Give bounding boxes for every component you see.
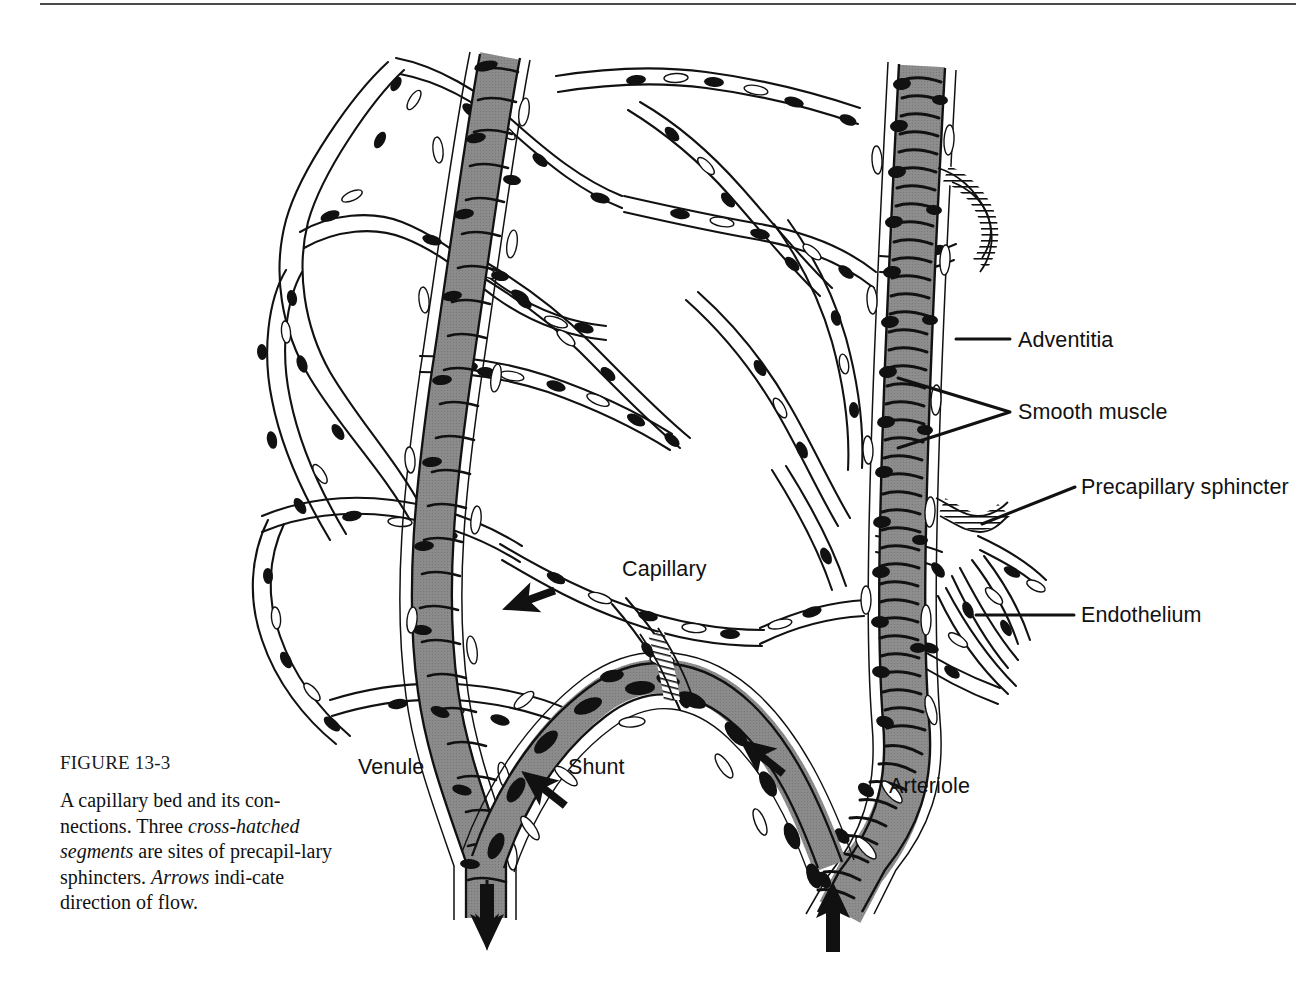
label-arteriole: Arteriole (889, 774, 970, 799)
label-shunt: Shunt (568, 755, 625, 780)
figure-page: Adventitia Smooth muscle Precapillary sp… (0, 0, 1314, 997)
label-endothelium: Endothelium (1081, 603, 1202, 628)
label-venule: Venule (358, 755, 424, 780)
label-precapillary-sphincter: Precapillary sphincter (1081, 475, 1289, 500)
figure-number: FIGURE 13-3 (60, 752, 352, 774)
label-smooth-muscle: Smooth muscle (1018, 400, 1167, 425)
label-capillary: Capillary (622, 557, 707, 582)
shunt-vessel (462, 652, 854, 890)
precapillary-sphincter-2 (936, 498, 1008, 532)
leader-precapillary-sphincter (982, 487, 1075, 524)
figure-caption-block: FIGURE 13-3 A capillary bed and its con-… (60, 752, 352, 916)
label-adventitia: Adventitia (1018, 328, 1113, 353)
arrow-capillary (497, 575, 561, 624)
caption-run-4: Arrows (151, 866, 209, 888)
figure-caption-text: A capillary bed and its con-nections. Th… (60, 788, 352, 916)
